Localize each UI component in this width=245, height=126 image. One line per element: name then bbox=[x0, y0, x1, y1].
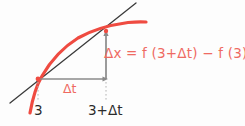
delta-x-formula-label: Δx = f (3+Δt) − f (3) bbox=[104, 47, 245, 61]
function-curve bbox=[30, 22, 146, 113]
axis-tick-label-3-plus-delta-t: 3+Δt bbox=[88, 104, 122, 118]
point-b-marker bbox=[104, 29, 108, 33]
delta-t-label: Δt bbox=[63, 83, 76, 96]
point-a-marker bbox=[36, 77, 41, 82]
axis-tick-label-3: 3 bbox=[34, 104, 43, 118]
derivative-diagram: Δx = f (3+Δt) − f (3) Δt 3 3+Δt bbox=[0, 0, 245, 126]
